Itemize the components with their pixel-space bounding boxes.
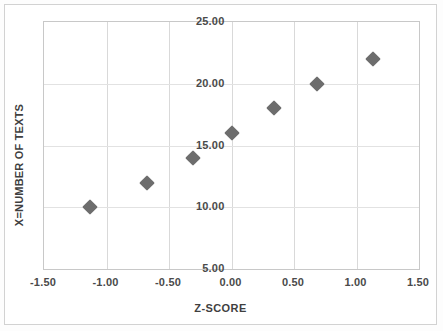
figure-frame: X=NUMBER OF TEXTS 5.0010.0015.0020.0025.… xyxy=(4,4,437,325)
x-axis-tick-label: 0.50 xyxy=(282,276,304,288)
y-axis-tick-label: 20.00 xyxy=(196,77,225,89)
data-point-marker xyxy=(185,150,201,166)
grid-line-horizontal xyxy=(44,84,419,85)
x-axis-tick-label: 1.50 xyxy=(407,276,429,288)
data-point-marker xyxy=(309,76,325,92)
data-point-marker xyxy=(365,51,381,67)
x-axis-tick-label: -1.50 xyxy=(30,276,56,288)
x-axis-tick-label: 1.00 xyxy=(344,276,366,288)
data-point-marker xyxy=(266,101,282,117)
grid-line-horizontal xyxy=(44,146,419,147)
y-axis-tick-label: 25.00 xyxy=(196,15,225,27)
data-point-marker xyxy=(82,199,98,215)
plot-area xyxy=(43,21,420,270)
data-point-marker xyxy=(139,175,155,191)
data-point-marker xyxy=(224,125,240,141)
y-axis-tick-label: 5.00 xyxy=(202,262,224,274)
y-axis-tick-label: 10.00 xyxy=(196,200,225,212)
x-axis-title: Z-SCORE xyxy=(5,302,436,314)
chart-figure: X=NUMBER OF TEXTS 5.0010.0015.0020.0025.… xyxy=(0,0,443,331)
x-axis-tick-label: -1.00 xyxy=(92,276,118,288)
y-axis-tick-label: 15.00 xyxy=(196,139,225,151)
y-axis-title: X=NUMBER OF TEXTS xyxy=(13,103,25,225)
x-axis-tick-label: 0.00 xyxy=(219,276,241,288)
grid-line-horizontal xyxy=(44,207,419,208)
x-axis-tick-label: -0.50 xyxy=(155,276,181,288)
